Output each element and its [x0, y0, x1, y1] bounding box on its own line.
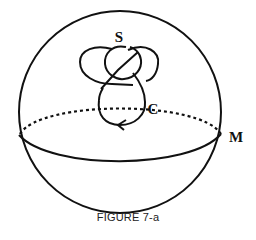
figure-caption: FIGURE 7-a — [0, 211, 256, 223]
loop-C-with-arrow — [99, 100, 145, 130]
knot-S — [80, 46, 158, 102]
equator-back-dotted — [20, 109, 221, 135]
label-M: M — [229, 129, 243, 145]
equator-front-solid — [19, 134, 221, 161]
sphere-figure: S C M — [0, 0, 256, 240]
label-C: C — [148, 101, 159, 117]
label-S: S — [115, 29, 123, 45]
